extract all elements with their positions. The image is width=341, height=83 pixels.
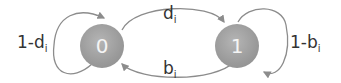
markov-chain-diagram: 0 1 1-di di bi 1-bi [0,0,341,83]
state-0: 0 [80,24,124,68]
label-0-to-1: di [163,5,177,25]
state-0-label: 0 [96,34,109,58]
state-1-label: 1 [231,34,244,58]
label-self-0: 1-di [17,34,48,54]
label-self-1: 1-bi [290,34,321,54]
label-1-to-0: bi [163,60,177,80]
state-1: 1 [215,24,259,68]
edge-1-to-0 [122,62,234,77]
